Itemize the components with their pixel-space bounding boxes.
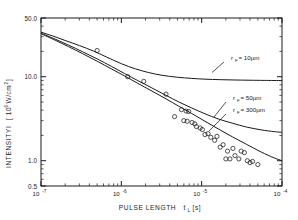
x-tick-label: 10	[113, 190, 120, 197]
x-tick-exponent: -5	[203, 189, 208, 194]
x-tick-exponent: -7	[42, 189, 47, 194]
x-tick-exponent: -6	[123, 189, 128, 194]
data-point	[213, 138, 217, 142]
y-axis-label-group: INTENSITYI[ 106W/cm2]	[4, 79, 13, 168]
y-tick-label: 1.0	[28, 157, 37, 164]
data-point	[209, 135, 213, 139]
x-axis-label: PULSE LENGTH	[119, 204, 176, 211]
x-axis-unit: [s]	[193, 204, 202, 212]
x-tick-label: 10	[193, 190, 200, 197]
figure-container: 0.51.010.050.010-710-610-510-4PULSE LENG…	[0, 0, 298, 220]
annotation-label-1: = 50µm	[241, 94, 262, 101]
x-tick-label: 10	[274, 190, 281, 197]
annotation-leader-1	[214, 102, 226, 117]
data-point	[142, 79, 146, 83]
data-point	[221, 143, 225, 147]
data-point	[250, 159, 254, 163]
y-axis-unit-close: ]	[5, 79, 13, 81]
y-tick-label: 0.5	[28, 183, 37, 190]
annotation-label-0: = 10µm	[239, 54, 260, 61]
data-point	[228, 157, 232, 161]
data-point	[231, 146, 235, 150]
curve-rf-50um	[41, 33, 282, 132]
x-tick-exponent: -4	[283, 189, 288, 194]
annotation-leader-0	[212, 62, 224, 73]
log-log-chart: 0.51.010.050.010-710-610-510-4PULSE LENG…	[0, 0, 298, 220]
data-point	[95, 48, 99, 52]
annotation-symbol-1: r	[233, 94, 235, 101]
y-axis-exponent: 6	[4, 104, 9, 107]
data-point	[224, 157, 228, 161]
y-axis-symbol: I	[5, 126, 12, 129]
annotation-symbol-0: r	[231, 54, 233, 61]
data-point	[256, 162, 260, 166]
scatter-series	[95, 48, 260, 166]
y-axis-label: INTENSITY	[5, 128, 12, 168]
y-axis-unit-open: [ 10	[5, 107, 13, 120]
data-point	[215, 134, 219, 138]
data-point	[172, 115, 176, 119]
y-tick-label: 10.0	[25, 73, 38, 80]
annotation-symbol-2: r	[233, 106, 235, 113]
data-point	[225, 149, 229, 153]
x-axis-symbol: t	[184, 204, 187, 211]
plot-frame	[41, 18, 282, 186]
x-tick-label: 10	[33, 190, 40, 197]
x-axis-subscript: L	[188, 208, 191, 213]
data-point	[233, 154, 237, 158]
y-tick-label: 50.0	[25, 15, 38, 22]
annotation-label-2: = 300µm	[241, 106, 265, 113]
data-point	[237, 157, 241, 161]
y-axis-unit: W/cm	[5, 85, 12, 104]
